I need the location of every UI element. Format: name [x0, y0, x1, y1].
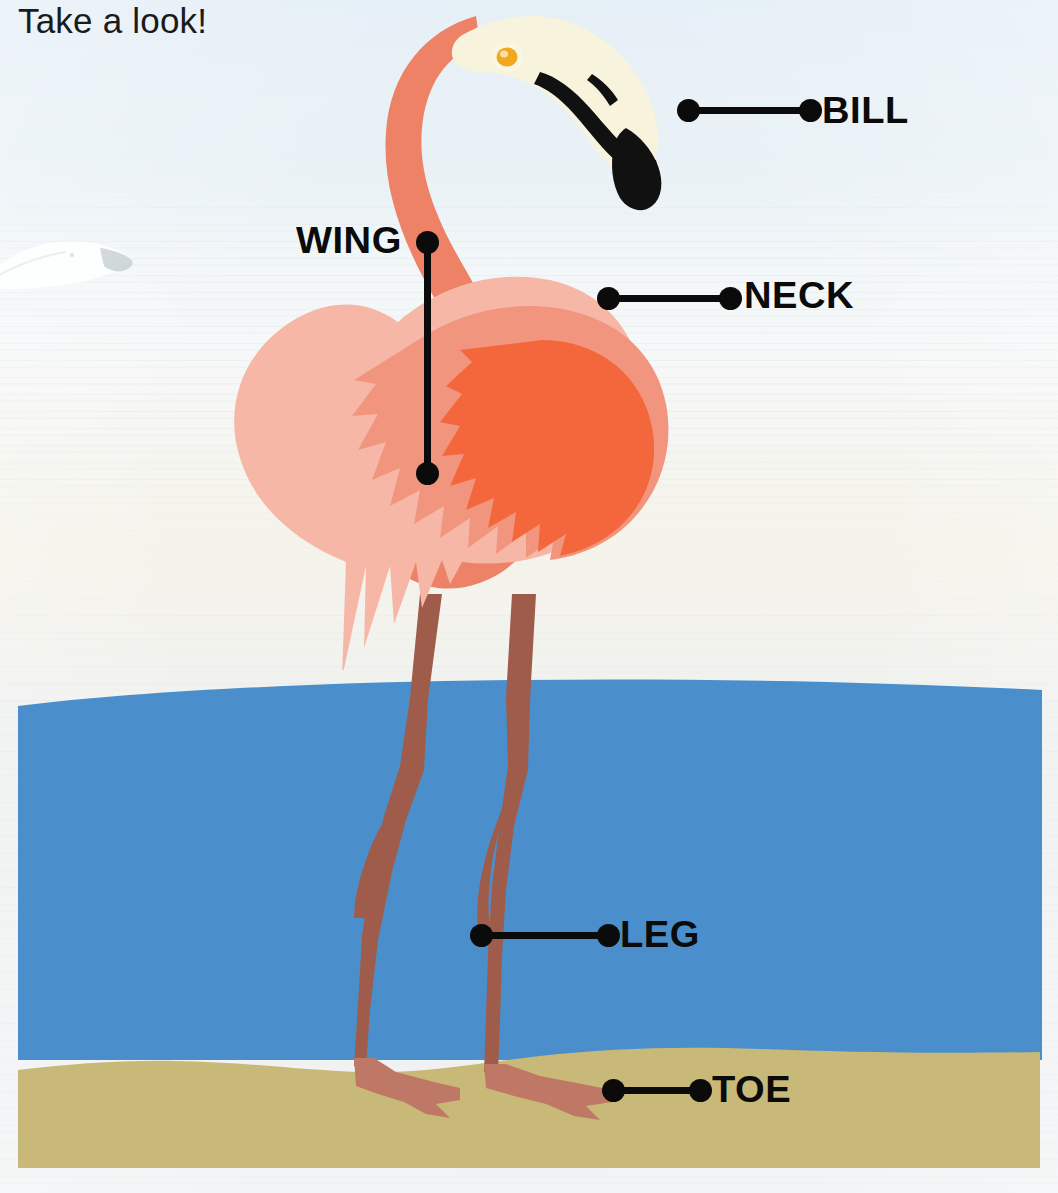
neck-end-dot — [719, 287, 742, 310]
wing-anchor-dot — [416, 462, 439, 485]
label-leg[interactable]: LEG — [620, 916, 700, 953]
wing-leader-line — [424, 242, 431, 473]
neck-leader-line — [608, 295, 730, 302]
flamingo-body — [150, 10, 750, 670]
bill-end-dot — [799, 99, 822, 122]
leg-end-dot — [597, 924, 620, 947]
toe-end-dot — [689, 1079, 712, 1102]
page-title: Take a look! — [18, 1, 207, 41]
label-bill[interactable]: BILL — [822, 92, 909, 129]
label-neck[interactable]: NECK — [744, 277, 854, 314]
label-toe[interactable]: TOE — [712, 1071, 791, 1108]
leg-leader-line — [481, 932, 608, 939]
label-wing[interactable]: WING — [296, 222, 402, 259]
bill-leader-line — [688, 107, 810, 114]
illustration-canvas: Take a look! BILL WING NECK LEG TOE — [0, 0, 1058, 1193]
toe-leader-line — [613, 1087, 700, 1094]
